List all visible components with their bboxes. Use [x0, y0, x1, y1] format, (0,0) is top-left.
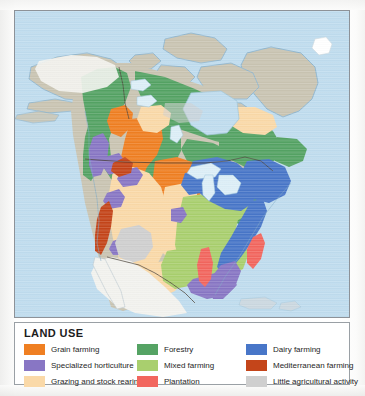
- legend-label-little-agricultural-activity: Little agricultural activity: [273, 376, 358, 387]
- legend-swatch-plantation: [137, 376, 158, 387]
- legend-label-mediterranean-farming: Mediterranean farming: [273, 360, 353, 371]
- legend-label-plantation: Plantation: [164, 376, 200, 387]
- legend-swatch-grazing-and-stock-rearing: [24, 376, 45, 387]
- map-vector-layer: [15, 11, 349, 317]
- legend-item-forestry: Forestry: [137, 342, 214, 356]
- legend-item-grain-farming: Grain farming: [24, 342, 143, 356]
- legend-swatch-specialized-horticulture: [24, 360, 45, 371]
- legend-label-grazing-and-stock-rearing: Grazing and stock rearing: [51, 376, 143, 387]
- legend-item-mixed-farming: Mixed farming: [137, 358, 214, 372]
- legend-label-dairy-farming: Dairy farming: [273, 344, 321, 355]
- legend-item-mediterranean-farming: Mediterranean farming: [246, 358, 358, 372]
- legend-column-1: Grain farming Specialized horticulture G…: [24, 342, 143, 390]
- hispaniola-island: [279, 301, 301, 311]
- legend-item-little-agricultural-activity: Little agricultural activity: [246, 374, 358, 388]
- legend-column-3: Dairy farming Mediterranean farming Litt…: [246, 342, 358, 390]
- legend-item-grazing-and-stock-rearing: Grazing and stock rearing: [24, 374, 143, 388]
- greenland-ice-cap: [312, 37, 332, 55]
- page-background: LAND USE Grain farming Specialized horti…: [0, 0, 365, 396]
- legend-item-dairy-farming: Dairy farming: [246, 342, 358, 356]
- legend-label-forestry: Forestry: [164, 344, 193, 355]
- scan-edge-left: [0, 0, 14, 396]
- legend-swatch-dairy-farming: [246, 344, 267, 355]
- legend-swatch-mediterranean-farming: [246, 360, 267, 371]
- legend-swatch-mixed-farming: [137, 360, 158, 371]
- scan-edge-top: [0, 0, 365, 10]
- legend-label-mixed-farming: Mixed farming: [164, 360, 214, 371]
- legend-swatch-little-agricultural-activity: [246, 376, 267, 387]
- arctic-islands-a: [163, 33, 227, 63]
- legend-column-2: Forestry Mixed farming Plantation: [137, 342, 214, 390]
- land-use-map: [14, 10, 350, 318]
- legend-swatch-grain-farming: [24, 344, 45, 355]
- alaska-peninsula: [27, 99, 77, 113]
- legend-label-specialized-horticulture: Specialized horticulture: [51, 360, 134, 371]
- legend-item-specialized-horticulture: Specialized horticulture: [24, 358, 143, 372]
- legend-title: LAND USE: [24, 327, 83, 339]
- cuba-island: [239, 297, 277, 309]
- map-legend: LAND USE Grain farming Specialized horti…: [14, 322, 350, 385]
- legend-label-grain-farming: Grain farming: [51, 344, 99, 355]
- legend-item-plantation: Plantation: [137, 374, 214, 388]
- legend-swatch-forestry: [137, 344, 158, 355]
